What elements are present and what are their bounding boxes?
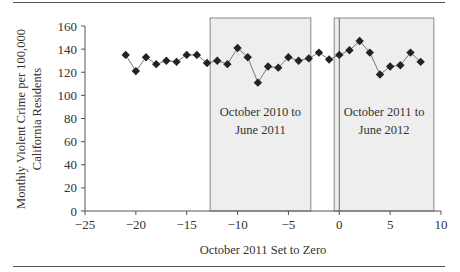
data-point-marker bbox=[315, 48, 323, 56]
region-label-2-line-1: October 2011 to bbox=[344, 105, 425, 119]
x-tick-label: −5 bbox=[282, 217, 296, 232]
y-axis-label-line-1: Monthly Violent Crime per 100,000 bbox=[14, 29, 28, 209]
x-tick-label: 0 bbox=[336, 217, 343, 232]
x-tick-label: 10 bbox=[435, 217, 448, 232]
x-tick-label: −20 bbox=[126, 217, 146, 232]
x-axis-label: October 2011 Set to Zero bbox=[200, 243, 327, 257]
x-tick-label: −15 bbox=[177, 217, 197, 232]
data-point-marker bbox=[325, 55, 333, 63]
data-point-marker bbox=[121, 51, 129, 59]
data-point-marker bbox=[183, 51, 191, 59]
y-tick-label: 20 bbox=[64, 180, 77, 195]
data-point-marker bbox=[152, 60, 160, 68]
region-label-1-line-1: October 2010 to bbox=[220, 105, 301, 119]
y-tick-label: 40 bbox=[64, 157, 77, 172]
region-label-2-line-2: June 2012 bbox=[359, 123, 410, 137]
y-tick-label: 160 bbox=[58, 19, 78, 34]
data-point-marker bbox=[142, 53, 150, 61]
y-tick-label: 140 bbox=[58, 42, 78, 57]
bottom-rule bbox=[13, 266, 445, 267]
shaded-regions: October 2010 toJune 2011October 2011 toJ… bbox=[210, 18, 434, 211]
region-label-1-line-2: June 2011 bbox=[235, 123, 286, 137]
data-point-marker bbox=[172, 58, 180, 66]
y-axis-label-line-2: California Residents bbox=[30, 68, 44, 171]
x-tick-label: −10 bbox=[227, 217, 247, 232]
y-tick-label: 100 bbox=[58, 88, 78, 103]
data-point-marker bbox=[162, 56, 170, 64]
y-tick-label: 80 bbox=[64, 111, 77, 126]
x-tick-label: −25 bbox=[75, 217, 95, 232]
data-point-marker bbox=[132, 67, 140, 75]
y-tick-label: 120 bbox=[58, 65, 78, 80]
x-tick-label: 5 bbox=[387, 217, 394, 232]
y-tick-label: 60 bbox=[64, 134, 77, 149]
line-chart: October 2010 toJune 2011October 2011 toJ… bbox=[0, 0, 460, 272]
